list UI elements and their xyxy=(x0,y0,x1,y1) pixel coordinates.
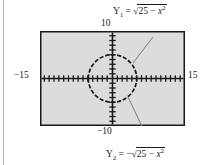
equation-lhs-subscript: 1 xyxy=(120,11,123,18)
equation-lhs-subscript: 2 xyxy=(113,154,116,161)
left-margin-rule xyxy=(3,0,4,165)
equation-lhs: Y xyxy=(106,149,113,159)
equals-sign: = xyxy=(126,6,131,16)
radicand-exponent: 2 xyxy=(161,147,164,154)
equation-label-upper-semicircle: Y1 = √25 − x2 xyxy=(113,3,167,19)
calculator-viewing-window xyxy=(40,31,185,126)
radical-expression: √25 − x2 xyxy=(132,146,165,160)
x-max-tick-label: 15 xyxy=(188,71,198,81)
x-min-tick-label: −15 xyxy=(14,71,29,81)
equation-label-lower-semicircle: Y2 = −√25 − x2 xyxy=(106,146,165,162)
radicand: 25 − x2 xyxy=(136,147,165,160)
radical-expression: √25 − x2 xyxy=(133,3,166,17)
graph-canvas xyxy=(40,31,185,126)
radicand-exponent: 2 xyxy=(162,4,165,11)
y-max-tick-label: 10 xyxy=(101,19,111,29)
figure-container: 10 −10 −15 15 Y1 = √25 − x2 Y2 = −√25 − … xyxy=(0,0,209,165)
equation-lhs: Y xyxy=(113,6,120,16)
equals-sign: = xyxy=(119,149,124,159)
radicand: 25 − x2 xyxy=(137,4,166,17)
y-min-tick-label: −10 xyxy=(97,127,112,137)
radicand-constant: 25 − xyxy=(138,6,158,16)
radicand-constant: 25 − xyxy=(137,149,157,159)
